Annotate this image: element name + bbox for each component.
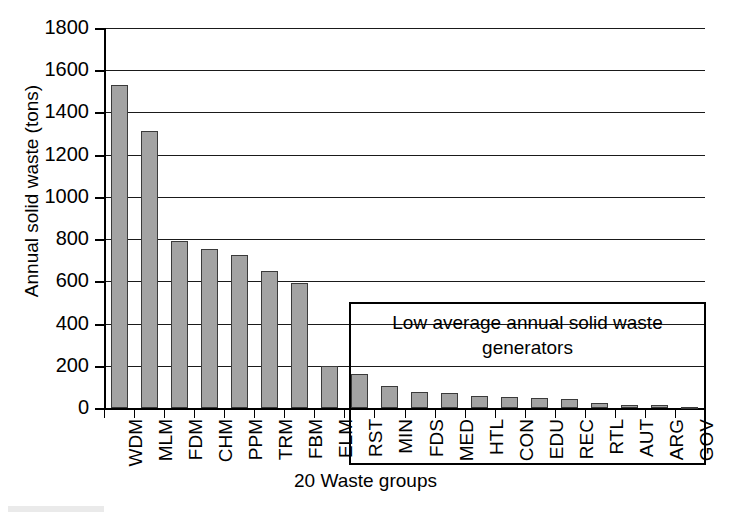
x-axis-label-med: MED	[457, 419, 476, 509]
x-axis-label-aut: AUT	[637, 419, 656, 509]
y-axis-tick	[95, 281, 106, 283]
bar-rtl	[591, 403, 608, 408]
bar-med	[441, 393, 458, 408]
x-axis-tick	[615, 409, 616, 418]
x-axis-label-chm: CHM	[216, 419, 235, 509]
y-axis-line	[104, 28, 106, 409]
x-axis-tick	[525, 409, 526, 418]
x-axis-label-elm: ELM	[336, 419, 355, 509]
x-axis-label-fdm: FDM	[186, 419, 205, 509]
x-axis-label-con: CON	[517, 419, 536, 509]
y-axis-tick-label: 0	[0, 397, 89, 417]
x-axis-tick	[224, 409, 225, 418]
x-axis-tick	[645, 409, 646, 418]
x-axis-label-rec: REC	[577, 419, 596, 509]
bar-con	[501, 397, 518, 408]
bar-gov	[681, 407, 698, 409]
x-axis-label-gov: GOV	[697, 419, 716, 509]
x-axis-tick	[284, 409, 285, 418]
bar-chm	[201, 249, 218, 408]
bar-wdm	[111, 85, 128, 408]
y-axis-tick	[95, 112, 106, 114]
x-axis-tick	[435, 409, 436, 418]
y-axis-tick	[95, 197, 106, 199]
x-axis-tick	[555, 409, 556, 418]
x-axis-label-rtl: RTL	[607, 419, 626, 509]
bar-edu	[531, 398, 548, 408]
y-axis-tick-label: 1800	[0, 17, 89, 37]
x-axis-label-rst: RST	[366, 419, 385, 509]
x-axis-tick	[585, 409, 586, 418]
x-axis-title: 20 Waste groups	[0, 470, 731, 492]
x-axis-tick	[495, 409, 496, 418]
bar-ppm	[231, 255, 248, 408]
bar-chart-figure: Annual solid waste (tons) 02004006008001…	[0, 0, 731, 527]
bar-trm	[261, 271, 278, 408]
scan-artifact	[8, 506, 104, 512]
gridline	[104, 281, 705, 282]
bar-rec	[561, 399, 578, 409]
gridline	[104, 239, 705, 240]
y-axis-tick-label: 1000	[0, 186, 89, 206]
y-axis-tick-label: 400	[0, 313, 89, 333]
x-axis-tick	[465, 409, 466, 418]
y-axis-tick-label: 1200	[0, 144, 89, 164]
x-axis-label-fbm: FBM	[306, 419, 325, 509]
low-generators-callout-text: Low average annual solid waste generator…	[357, 310, 698, 360]
callout-line-1: Low average annual solid waste	[357, 310, 698, 335]
gridline	[104, 112, 705, 113]
bar-htl	[471, 396, 488, 408]
bar-elm	[321, 366, 338, 408]
bar-fdm	[171, 241, 188, 408]
x-axis-label-arg: ARG	[667, 419, 686, 509]
x-axis-label-edu: EDU	[547, 419, 566, 509]
bar-mlm	[141, 131, 158, 408]
y-axis-tick	[95, 70, 106, 72]
x-axis-label-trm: TRM	[276, 419, 295, 509]
callout-line-2: generators	[357, 335, 698, 360]
bar-aut	[621, 405, 638, 408]
y-axis-tick	[95, 155, 106, 157]
y-axis-tick-label: 200	[0, 355, 89, 375]
x-axis-label-ppm: PPM	[246, 419, 265, 509]
x-axis-label-htl: HTL	[487, 419, 506, 509]
x-axis-tick	[164, 409, 165, 418]
x-axis-label-min: MIN	[396, 419, 415, 509]
bar-fbm	[291, 283, 308, 408]
x-axis-tick	[344, 409, 345, 418]
x-axis-tick	[405, 409, 406, 418]
y-axis-tick-label: 800	[0, 228, 89, 248]
y-axis-tick-label: 1400	[0, 101, 89, 121]
bar-rst	[351, 374, 368, 408]
x-axis-label-fds: FDS	[427, 419, 446, 509]
x-axis-tick	[254, 409, 255, 418]
x-axis-label-wdm: WDM	[126, 419, 145, 509]
y-axis-tick-label: 600	[0, 270, 89, 290]
gridline	[104, 366, 705, 367]
gridline	[104, 70, 705, 71]
x-axis-tick	[374, 409, 375, 418]
y-axis-tick-label: 1600	[0, 59, 89, 79]
x-axis-tick	[675, 409, 676, 418]
y-axis-tick	[95, 239, 106, 241]
x-axis-tick	[314, 409, 315, 418]
gridline	[104, 197, 705, 198]
x-axis-tick	[705, 409, 706, 418]
y-axis-tick	[95, 28, 106, 30]
x-axis-tick	[194, 409, 195, 418]
x-axis-tick	[134, 409, 135, 418]
y-axis-tick	[95, 324, 106, 326]
y-axis-tick	[95, 366, 106, 368]
bar-arg	[651, 405, 668, 408]
gridline	[104, 155, 705, 156]
x-axis-label-mlm: MLM	[156, 419, 175, 509]
gridline	[104, 28, 705, 29]
x-axis-tick	[104, 409, 105, 418]
bar-min	[381, 386, 398, 408]
bar-fds	[411, 392, 428, 408]
